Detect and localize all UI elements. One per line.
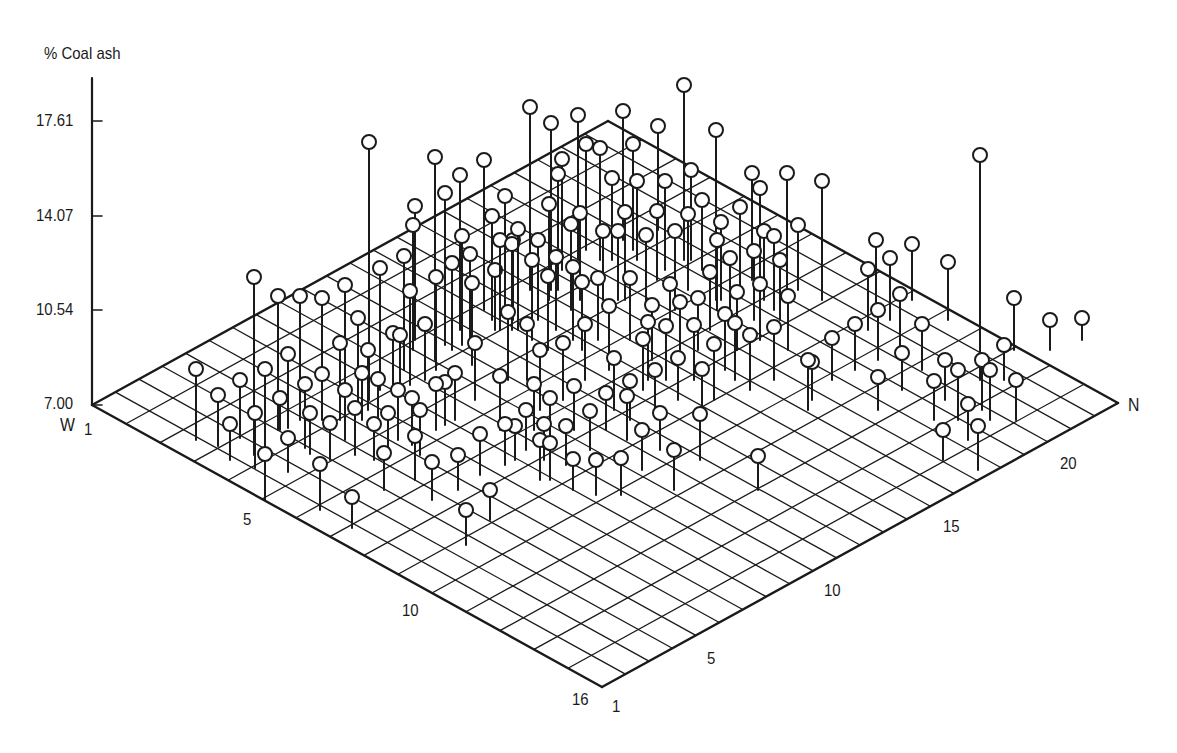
data-point-marker	[1007, 291, 1021, 305]
data-point-marker	[451, 448, 465, 462]
data-point-marker	[537, 417, 551, 431]
data-point-marker	[593, 141, 607, 155]
data-point-marker	[905, 237, 919, 251]
data-point-marker	[465, 276, 479, 290]
z-tick-label-10.54: 10.54	[36, 300, 73, 320]
data-point-marker	[650, 204, 664, 218]
data-point-marker	[791, 218, 805, 232]
data-point-marker	[355, 366, 369, 380]
data-point-marker	[951, 363, 965, 377]
data-point-marker	[463, 247, 477, 261]
data-point-marker	[323, 416, 337, 430]
data-point-marker	[373, 261, 387, 275]
data-point-marker	[767, 229, 781, 243]
data-point-marker	[630, 174, 644, 188]
data-point-marker	[493, 369, 507, 383]
data-point-marker	[362, 135, 376, 149]
data-point-marker	[559, 419, 573, 433]
data-point-marker	[695, 193, 709, 207]
data-point-marker	[695, 362, 709, 376]
data-point-marker	[681, 207, 695, 221]
data-point-marker	[403, 284, 417, 298]
data-point-marker	[293, 289, 307, 303]
data-point-marker	[687, 318, 701, 332]
z-tick-label-14.07: 14.07	[36, 206, 73, 226]
data-point-marker	[773, 253, 787, 267]
data-point-marker	[413, 403, 427, 417]
data-point-marker	[961, 397, 975, 411]
z-axis-label: % Coal ash	[44, 44, 121, 64]
data-point-marker	[281, 431, 295, 445]
w-tick-label-16: 16	[572, 690, 589, 710]
data-point-marker	[555, 152, 569, 166]
data-point-marker	[751, 449, 765, 463]
data-point-marker	[459, 503, 473, 517]
data-point-marker	[223, 417, 237, 431]
data-point-marker	[543, 436, 557, 450]
z-tick-label-17.61: 17.61	[36, 111, 73, 131]
data-point-marker	[248, 406, 262, 420]
data-point-marker	[941, 255, 955, 269]
data-point-marker	[571, 108, 585, 122]
data-point-marker	[367, 417, 381, 431]
data-point-marker	[505, 237, 519, 251]
n-tick-label-10: 10	[824, 581, 841, 601]
data-point-marker	[663, 277, 677, 291]
data-point-marker	[599, 386, 613, 400]
data-point-marker	[728, 316, 742, 330]
data-point-marker	[579, 137, 593, 151]
w-tick-label-5: 5	[243, 510, 251, 530]
data-point-marker	[667, 443, 681, 457]
data-point-marker	[575, 275, 589, 289]
data-point-marker	[485, 209, 499, 223]
data-point-marker	[418, 317, 432, 331]
data-point-marker	[361, 343, 375, 357]
data-point-marker	[189, 362, 203, 376]
data-point-marker	[273, 391, 287, 405]
data-point-marker	[684, 163, 698, 177]
stem-plot-3d	[0, 0, 1177, 753]
data-point-marker	[677, 78, 691, 92]
data-point-marker	[523, 100, 537, 114]
data-point-marker	[429, 377, 443, 391]
data-point-marker	[408, 429, 422, 443]
data-point-marker	[589, 453, 603, 467]
data-point-marker	[658, 174, 672, 188]
data-point-marker	[668, 224, 682, 238]
data-point-marker	[703, 265, 717, 279]
data-point-marker	[501, 305, 515, 319]
z-axis	[92, 78, 102, 405]
data-point-marker	[381, 406, 395, 420]
data-point-marker	[525, 253, 539, 267]
data-point-marker	[753, 181, 767, 195]
data-point-marker	[883, 251, 897, 265]
data-point-marker	[895, 346, 909, 360]
data-point-marker	[651, 119, 665, 133]
data-point-marker	[861, 262, 875, 276]
data-point-marker	[511, 222, 525, 236]
data-point-marker	[635, 423, 649, 437]
data-point-marker	[397, 249, 411, 263]
data-point-marker	[645, 298, 659, 312]
data-point-marker	[338, 278, 352, 292]
n-tick-label-1: 1	[612, 697, 620, 717]
data-point-marker	[578, 317, 592, 331]
data-point-marker	[429, 270, 443, 284]
data-point-marker	[691, 291, 705, 305]
data-point-marker	[408, 199, 422, 213]
data-point-marker	[338, 383, 352, 397]
data-point-marker	[542, 197, 556, 211]
data-point-marker	[623, 374, 637, 388]
data-point-marker	[345, 490, 359, 504]
z-tick-label-7.00: 7.00	[44, 394, 73, 414]
data-point-marker	[591, 271, 605, 285]
data-point-marker	[233, 373, 247, 387]
data-point-marker	[425, 455, 439, 469]
data-point-marker	[611, 224, 625, 238]
data-point-marker	[498, 417, 512, 431]
data-point-marker	[653, 406, 667, 420]
n-tick-label-15: 15	[943, 517, 960, 537]
data-point-marker	[709, 123, 723, 137]
data-point-marker	[636, 332, 650, 346]
data-point-marker	[556, 336, 570, 350]
